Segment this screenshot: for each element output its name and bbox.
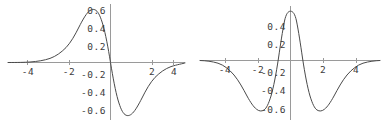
y-tick-label-0.4-right: 0.4 — [254, 22, 286, 32]
x-tick-label--4-right: -4 — [210, 65, 240, 75]
x-tick-label-4-left: 4 — [161, 67, 187, 77]
x-tick-label--4-left: -4 — [13, 67, 43, 77]
x-tick-label--2-right: -2 — [243, 65, 273, 75]
y-tick-label-0.6-left: 0.6 — [74, 6, 106, 16]
y-tick-label--0.6-left: -0.6 — [68, 106, 106, 116]
plot-left: 0.6 0.4 0.2 -0.2 -0.4 -0.6 -4 -2 2 4 — [0, 0, 193, 124]
y-tick-label--0.6-right: -0.6 — [248, 105, 286, 115]
x-tick-label--2-left: -2 — [54, 67, 84, 77]
x-tick-label-4-right: 4 — [343, 65, 369, 75]
y-tick-label--0.4-left: -0.4 — [68, 88, 106, 98]
figure-two-plots: 0.6 0.4 0.2 -0.2 -0.4 -0.6 -4 -2 2 4 0.4… — [0, 0, 387, 124]
y-tick-label-0.4-left: 0.4 — [74, 24, 106, 34]
plot-right-canvas — [194, 0, 387, 124]
y-tick-label--0.4-right: -0.4 — [248, 86, 286, 96]
x-tick-label-2-right: 2 — [310, 65, 336, 75]
y-tick-label-0.2-right: 0.2 — [254, 40, 286, 50]
y-tick-label-0.2-left: 0.2 — [74, 42, 106, 52]
plot-right: 0.4 0.2 -0.2 -0.4 -0.6 -4 -2 2 4 — [194, 0, 387, 124]
